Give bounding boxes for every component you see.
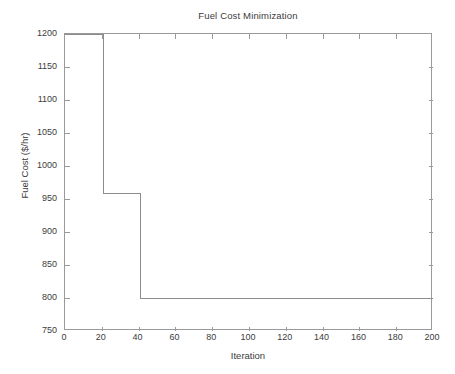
x-tick-label: 200	[424, 333, 439, 342]
plot-area[interactable]	[64, 33, 432, 330]
y-tick-label: 950	[42, 194, 57, 203]
data-line-series-0	[65, 34, 433, 298]
y-tick-label: 1100	[38, 95, 57, 104]
plot-svg	[65, 34, 433, 331]
y-tick-label: 800	[42, 293, 57, 302]
figure-canvas: Fuel Cost Minimization 75080085090095010…	[0, 0, 455, 374]
y-tick-label: 900	[42, 227, 57, 236]
axis-tick-marks	[65, 34, 433, 331]
x-tick-label: 140	[314, 333, 329, 342]
x-tick-label: 80	[206, 333, 216, 342]
x-tick-label: 120	[277, 333, 292, 342]
x-axis-title: Iteration	[64, 350, 432, 361]
x-tick-label: 0	[61, 333, 66, 342]
y-tick-label: 1050	[37, 128, 57, 137]
x-tick-label: 20	[96, 333, 106, 342]
y-tick-label: 1000	[37, 161, 57, 170]
y-tick-label: 1150	[38, 62, 57, 71]
x-tick-label: 100	[240, 333, 255, 342]
chart-title: Fuel Cost Minimization	[64, 10, 432, 21]
x-tick-label: 180	[388, 333, 403, 342]
y-axis-title: Fuel Cost ($/hr)	[19, 101, 30, 231]
x-axis-tick-labels: 020406080100120140160180200	[64, 333, 432, 347]
x-tick-label: 40	[133, 333, 143, 342]
y-tick-label: 750	[42, 326, 57, 335]
data-series-group	[65, 34, 433, 298]
y-tick-label: 850	[42, 260, 57, 269]
y-tick-label: 1200	[37, 29, 57, 38]
x-tick-label: 60	[169, 333, 179, 342]
x-tick-label: 160	[351, 333, 366, 342]
